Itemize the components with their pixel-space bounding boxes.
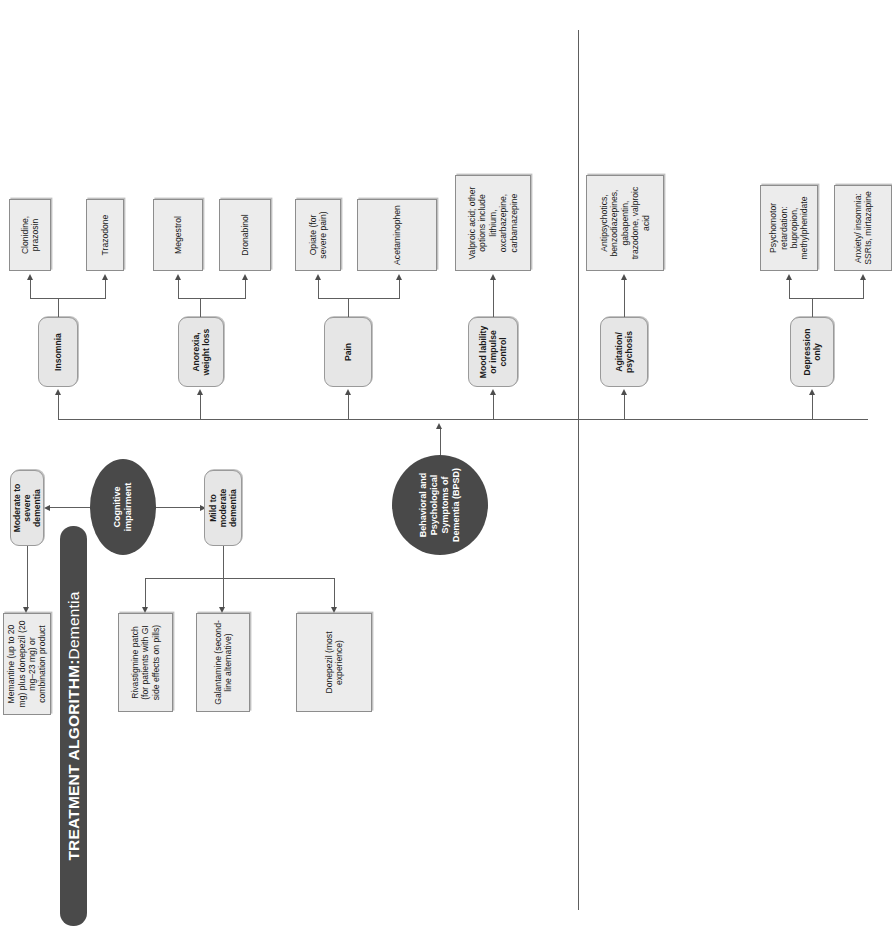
arrow-to-clonidine [27, 274, 33, 280]
page-title-strong: TREATMENT ALGORITHM: [65, 659, 83, 860]
arrow-to-anorexia [197, 389, 203, 395]
category-moderate-to-severe-dementia-label: Moderate to severe dementia [12, 475, 43, 541]
treatment-memantine-donepezil-label: Memantine (up to 20 mg) plus donepezil (… [6, 619, 48, 709]
arrow-to-dronabinol [242, 274, 248, 280]
connector-insomnia-to-clonidine [30, 279, 31, 299]
arrow-to-acetaminophen [396, 274, 402, 280]
treatment-trazodone: Trazodone [86, 199, 124, 271]
treatment-galantamine-label: Galantamine (second-line alternative) [213, 619, 234, 706]
arrow-to-insomnia [55, 389, 61, 395]
connector-anorexia-stem [200, 298, 201, 317]
treatment-acetaminophen-label: Acetaminophen [392, 205, 402, 265]
root-bpsd-label: Behavioral and Psychological Symptoms of… [418, 461, 462, 549]
category-moderate-to-severe-dementia: Moderate to severe dementia [10, 470, 44, 546]
root-cognitive-impairment-label: Cognitive impairment [112, 465, 134, 549]
category-depression-only-label: Depression only [802, 322, 822, 382]
category-insomnia-label: Insomnia [53, 333, 63, 371]
connector-cognitive-trunk-lower [156, 507, 204, 508]
category-anorexia-weight-loss-label: Anorexia, weight loss [191, 322, 211, 382]
connector-mild-stem [223, 546, 224, 579]
treatment-antipsychotics: Antipsychotics, benzodiazepines, gabapen… [586, 175, 664, 271]
connector-bus-to-insomnia [58, 394, 59, 420]
category-pain-label: Pain [343, 343, 353, 361]
treatment-anxiety-insomnia: Anxiety/ insomnia: SSRIs, mirtazapine [834, 185, 892, 271]
connector-mild-bus [145, 578, 335, 579]
connector-anorexia-bus [178, 298, 246, 299]
category-mood-lability: Mood lability or impulse control [468, 317, 518, 387]
connector-depression-bus [789, 298, 864, 299]
connector-bus-to-pain [348, 394, 349, 420]
treatment-donepezil-label: Donepezil (most experience) [324, 619, 345, 706]
connector-depression-stem [812, 298, 813, 317]
page-bottom-rule [578, 30, 579, 910]
category-mild-to-moderate-dementia: Mild to moderate dementia [204, 470, 242, 546]
arrow-bpsd-stem [436, 423, 442, 429]
arrow-to-valproic [490, 274, 496, 280]
connector-pain-bus [318, 298, 400, 299]
arrow-to-pain [345, 389, 351, 395]
connector-depression-to-anxiety [863, 279, 864, 299]
connector-mild-to-galantamine [223, 578, 224, 607]
connector-pain-stem [348, 298, 349, 317]
treatment-opiate-label: Opiate (for severe pain) [308, 205, 329, 265]
connector-bus-to-depression [812, 394, 813, 420]
category-agitation-psychosis: Agitation/ psychosis [600, 317, 648, 387]
connector-insomnia-to-trazodone [105, 279, 106, 299]
category-agitation-psychosis-label: Agitation/ psychosis [614, 322, 634, 382]
treatment-dronabinol-label: Dronabinol [240, 214, 250, 256]
category-insomnia: Insomnia [38, 317, 78, 387]
category-anorexia-weight-loss: Anorexia, weight loss [178, 317, 224, 387]
treatment-psychomotor-retardation: Psychomotor retardation: bupropion, meth… [760, 185, 818, 271]
treatment-dronabinol: Dronabinol [219, 199, 271, 271]
connector-insomnia-bus [30, 298, 106, 299]
arrow-to-anxiety [860, 274, 866, 280]
treatment-memantine-donepezil: Memantine (up to 20 mg) plus donepezil (… [3, 613, 51, 715]
connector-bus-to-agitation [624, 394, 625, 420]
category-depression-only: Depression only [790, 317, 834, 387]
arrow-to-trazodone [102, 274, 108, 280]
connector-moderate-to-memantine [27, 546, 28, 607]
connector-insomnia-stem [58, 298, 59, 317]
treatment-rivastigmine-patch: Rivastigmine patch (for patients with GI… [118, 613, 173, 712]
treatment-clonidine-prazosin-label: Clonidine, prazosin [20, 205, 41, 265]
treatment-rivastigmine-patch-label: Rivastigmine patch (for patients with GI… [130, 619, 161, 706]
treatment-galantamine: Galantamine (second-line alternative) [196, 613, 250, 712]
arrow-to-depression [809, 389, 815, 395]
connector-mood-to-valproic [493, 279, 494, 317]
treatment-megestrol: Megestrol [153, 199, 203, 271]
treatment-opiate: Opiate (for severe pain) [295, 199, 341, 271]
category-mild-to-moderate-dementia-label: Mild to moderate dementia [208, 475, 239, 541]
treatment-trazodone-label: Trazodone [100, 215, 110, 256]
treatment-clonidine-prazosin: Clonidine, prazosin [9, 199, 51, 271]
arrow-to-antipsychotics [621, 274, 627, 280]
root-cognitive-impairment: Cognitive impairment [90, 459, 156, 555]
connector-bpsd-stem [440, 428, 441, 455]
treatment-anxiety-insomnia-label: Anxiety/ insomnia: SSRIs, mirtazapine [853, 191, 874, 265]
treatment-acetaminophen: Acetaminophen [357, 199, 437, 271]
page-title: TREATMENT ALGORITHM: Dementia [60, 526, 87, 926]
treatment-valproic-acid: Valproic acid; other options include lit… [455, 175, 531, 271]
connector-depression-to-psychomotor [789, 279, 790, 299]
treatment-donepezil: Donepezil (most experience) [296, 613, 372, 712]
category-mood-lability-label: Mood lability or impulse control [478, 322, 509, 382]
connector-cognitive-trunk [48, 507, 90, 508]
connector-anorexia-to-megestrol [178, 279, 179, 299]
treatment-antipsychotics-label: Antipsychotics, benzodiazepines, gabapen… [599, 181, 651, 265]
page-title-light: Dementia [65, 591, 83, 659]
connector-bus-to-mood-lability [493, 394, 494, 420]
arrow-to-agitation [621, 389, 627, 395]
arrow-to-moderate-severe [44, 505, 50, 511]
arrow-to-mood-lability [490, 389, 496, 395]
root-bpsd: Behavioral and Psychological Symptoms of… [392, 455, 488, 555]
treatment-megestrol-label: Megestrol [173, 216, 183, 254]
connector-bus-to-anorexia [200, 394, 201, 420]
treatment-valproic-acid-label: Valproic acid; other options include lit… [467, 181, 519, 265]
arrow-to-opiate [315, 274, 321, 280]
connector-anorexia-to-dronabinol [245, 279, 246, 299]
arrow-to-megestrol [175, 274, 181, 280]
connector-mild-to-donepezil [334, 578, 335, 607]
category-pain: Pain [324, 317, 372, 387]
connector-mild-to-rivastigmine [145, 578, 146, 607]
connector-bpsd-bus [58, 419, 868, 420]
